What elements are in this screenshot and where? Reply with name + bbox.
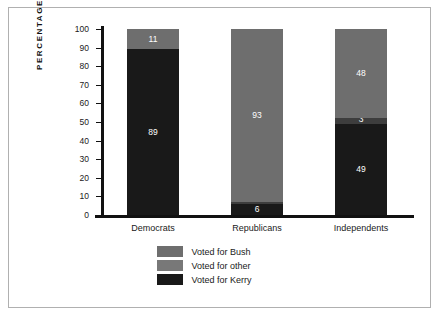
x-tick-label-democrats: Democrats <box>93 223 213 233</box>
y-tick-label-60: 60 <box>80 99 89 108</box>
bar-value-independents-kerry: 49 <box>356 165 365 174</box>
legend-swatch-bush <box>157 246 183 257</box>
y-tick-label-100: 100 <box>75 25 89 34</box>
legend-label-bush: Voted for Bush <box>192 247 251 257</box>
y-tick-100: 100 <box>96 29 101 30</box>
y-tick-50: 50 <box>96 122 101 123</box>
x-axis-line <box>95 215 414 218</box>
y-tick-label-0: 0 <box>84 211 89 220</box>
y-tick-90: 90 <box>96 48 101 49</box>
y-tick-label-70: 70 <box>80 81 89 90</box>
legend-label-other: Voted for other <box>192 261 251 271</box>
y-tick-label-50: 50 <box>80 118 89 127</box>
bar-value-republicans-bush: 93 <box>252 111 261 120</box>
y-tick-20: 20 <box>96 178 101 179</box>
bar-value-democrats-kerry: 89 <box>148 128 157 137</box>
bar-segment-democrats-kerry[interactable]: 89 <box>127 49 179 215</box>
legend-item-other[interactable]: Voted for other <box>157 260 285 271</box>
y-tick-70: 70 <box>96 85 101 86</box>
y-tick-label-90: 90 <box>80 43 89 52</box>
x-tick-label-independents: Independents <box>301 223 421 233</box>
bar-value-independents-bush: 48 <box>356 69 365 78</box>
y-tick-label-20: 20 <box>80 174 89 183</box>
y-tick-40: 40 <box>96 141 101 142</box>
y-tick-30: 30 <box>96 159 101 160</box>
legend-swatch-kerry <box>157 274 183 285</box>
bar-segment-democrats-bush[interactable]: 11 <box>127 29 179 49</box>
y-tick-label-80: 80 <box>80 62 89 71</box>
plot-area: 100 90 80 70 60 50 40 30 20 10 0 <box>101 29 414 215</box>
chart-legend: Voted for Bush Voted for other Voted for… <box>9 246 432 285</box>
bar-value-republicans-kerry: 6 <box>255 205 260 214</box>
bar-segment-republicans-kerry[interactable]: 6 <box>231 204 283 215</box>
y-axis-title: PERCENTAGE <box>35 0 44 70</box>
bar-value-democrats-bush: 11 <box>149 35 158 44</box>
legend-item-kerry[interactable]: Voted for Kerry <box>157 274 285 285</box>
y-tick-label-40: 40 <box>80 136 89 145</box>
y-tick-label-10: 10 <box>80 192 89 201</box>
legend-swatch-other <box>157 260 183 271</box>
bar-segment-independents-kerry[interactable]: 49 <box>335 124 387 215</box>
y-tick-0: 0 <box>96 215 101 216</box>
bar-segment-republicans-other[interactable]: 1 <box>231 202 283 204</box>
y-tick-label-30: 30 <box>80 155 89 164</box>
x-tick-label-republicans: Republicans <box>197 223 317 233</box>
legend-label-kerry: Voted for Kerry <box>192 275 252 285</box>
y-axis-line <box>101 26 104 215</box>
legend-item-bush[interactable]: Voted for Bush <box>157 246 285 257</box>
chart-figure: PERCENTAGE 100 90 80 70 60 50 40 30 20 <box>8 7 431 308</box>
bar-segment-independents-other[interactable]: 3 <box>335 118 387 124</box>
bar-segment-republicans-bush[interactable]: 93 <box>231 29 283 202</box>
bar-segment-independents-bush[interactable]: 48 <box>335 29 387 118</box>
y-tick-80: 80 <box>96 66 101 67</box>
y-tick-60: 60 <box>96 103 101 104</box>
y-tick-10: 10 <box>96 196 101 197</box>
